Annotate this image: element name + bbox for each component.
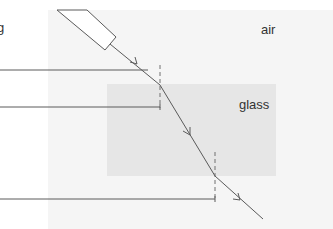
air-label: air	[261, 23, 275, 36]
glass-label: glass	[239, 98, 269, 111]
cut-off-label: g	[0, 21, 4, 34]
refraction-diagram	[0, 0, 333, 229]
